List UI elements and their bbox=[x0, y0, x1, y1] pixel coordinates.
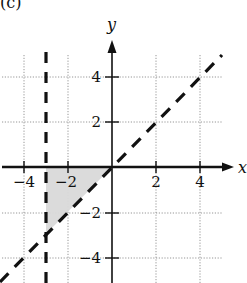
x-tick-label: −2 bbox=[55, 173, 77, 191]
y-tick-label: 4 bbox=[91, 68, 101, 86]
y-tick-label: 2 bbox=[91, 113, 101, 131]
boundary-line-y-eq-x bbox=[0, 55, 222, 282]
x-tick-label: −4 bbox=[13, 173, 35, 191]
y-tick-label: −4 bbox=[79, 249, 101, 267]
x-axis-label: x bbox=[238, 158, 247, 177]
y-tick-label: −2 bbox=[79, 204, 101, 222]
x-tick-label: 2 bbox=[151, 173, 161, 191]
inequality-graph: (c) x y −4 −2 2 4 bbox=[0, 0, 247, 283]
panel-label: (c) bbox=[0, 0, 21, 12]
y-axis-label: y bbox=[106, 15, 117, 34]
x-tick-label: 4 bbox=[195, 173, 205, 191]
y-axis-arrow-icon bbox=[108, 40, 117, 53]
x-axis-arrow-icon bbox=[222, 163, 234, 172]
x-tick-labels: −4 −2 2 4 bbox=[13, 173, 205, 191]
y-axis bbox=[105, 40, 119, 283]
x-axis bbox=[2, 161, 234, 173]
